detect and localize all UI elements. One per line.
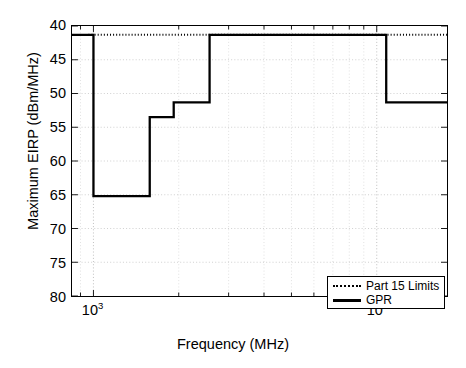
- chart-legend: Part 15 Limits GPR: [327, 276, 445, 309]
- legend-label-part15: Part 15 Limits: [366, 280, 439, 292]
- legend-swatch-solid-icon: [332, 295, 362, 305]
- legend-item-part15: Part 15 Limits: [332, 279, 440, 293]
- x-axis-title: Frequency (MHz): [0, 336, 466, 352]
- x-axis-tick-labels: 103104: [0, 0, 466, 368]
- legend-label-gpr: GPR: [366, 294, 392, 306]
- chart-figure: Maximum EIRP (dBm/MHz) 40455055606570758…: [0, 0, 466, 368]
- legend-item-gpr: GPR: [332, 293, 440, 307]
- legend-swatch-dotted-icon: [332, 281, 362, 291]
- x-tick-label: 103: [82, 303, 103, 318]
